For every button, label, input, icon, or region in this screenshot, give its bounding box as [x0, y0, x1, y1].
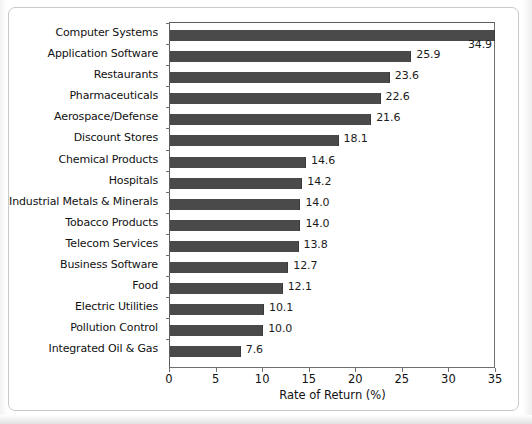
category-label: Computer Systems [55, 26, 158, 39]
category-label: Restaurants [94, 68, 158, 81]
bar [170, 220, 300, 231]
category-tick [166, 23, 170, 24]
value-axis-tick-labels: 05101520253035 [0, 372, 532, 388]
bar [170, 72, 390, 83]
chart-page: Computer SystemsApplication SoftwareRest… [0, 0, 532, 424]
bar-value-label: 12.1 [288, 280, 312, 293]
value-tick-label: 20 [348, 372, 363, 386]
bar-row: 34.9 [170, 26, 494, 47]
category-label: Discount Stores [74, 131, 158, 144]
value-tick-label: 15 [301, 372, 316, 386]
category-tick [166, 86, 170, 87]
bar-row: 25.9 [170, 47, 494, 68]
bar [170, 199, 300, 210]
bar-row: 10.1 [170, 300, 494, 321]
value-axis-title: Rate of Return (%) [169, 388, 496, 402]
category-tick [166, 234, 170, 235]
bar-row: 23.6 [170, 68, 494, 89]
bar-value-label: 10.1 [269, 301, 293, 314]
bar-value-label: 14.0 [305, 196, 329, 209]
category-label: Pollution Control [70, 321, 158, 334]
category-tick [166, 44, 170, 45]
category-label: Chemical Products [59, 153, 158, 166]
bar-value-label: 7.6 [246, 343, 263, 356]
value-tick-label: 0 [165, 372, 172, 386]
bar [170, 241, 299, 252]
category-tick [166, 150, 170, 151]
category-tick [166, 339, 170, 340]
bar-value-label: 13.8 [304, 238, 328, 251]
bar [170, 283, 283, 294]
category-tick [166, 192, 170, 193]
bar-row: 7.6 [170, 342, 494, 363]
bar-value-label: 14.2 [307, 175, 331, 188]
bar-row: 13.8 [170, 237, 494, 258]
bar [170, 262, 288, 273]
value-tick-label: 35 [488, 372, 503, 386]
category-label: Electric Utilities [75, 300, 158, 313]
bar-row: 14.0 [170, 216, 494, 237]
category-label: Telecom Services [66, 237, 158, 250]
page-edge-shadow-right [522, 0, 532, 424]
bar-value-label: 14.0 [305, 217, 329, 230]
bar [170, 157, 306, 168]
category-label: Business Software [60, 258, 158, 271]
bar [170, 30, 495, 41]
bar-row: 22.6 [170, 89, 494, 110]
bar-value-label: 10.0 [268, 322, 292, 335]
bar-row: 21.6 [170, 110, 494, 131]
bar-row: 12.7 [170, 258, 494, 279]
category-label: Aerospace/Defense [54, 110, 158, 123]
value-tick-label: 30 [441, 372, 456, 386]
bar-value-label: 18.1 [344, 132, 368, 145]
bar-row: 10.0 [170, 321, 494, 342]
category-label: Integrated Oil & Gas [49, 342, 158, 355]
bar [170, 93, 381, 104]
category-tick [166, 128, 170, 129]
category-label: Hospitals [109, 174, 158, 187]
category-label: Tobacco Products [65, 216, 158, 229]
category-tick [166, 213, 170, 214]
bar-row: 14.0 [170, 195, 494, 216]
plot-area: 34.925.923.622.621.618.114.614.214.014.0… [169, 22, 495, 368]
category-label: Pharmaceuticals [69, 89, 158, 102]
bar-value-label: 25.9 [416, 48, 440, 61]
bar [170, 135, 339, 146]
bar-row: 12.1 [170, 279, 494, 300]
bar-value-label: 23.6 [395, 69, 419, 82]
bar-row: 14.6 [170, 153, 494, 174]
value-tick-label: 5 [212, 372, 219, 386]
category-label: Food [132, 279, 158, 292]
bar [170, 114, 371, 125]
bar [170, 325, 263, 336]
bars-container: 34.925.923.622.621.618.114.614.214.014.0… [170, 23, 494, 367]
bar-row: 14.2 [170, 174, 494, 195]
category-axis-labels: Computer SystemsApplication SoftwareRest… [0, 22, 164, 368]
bar-value-label: 21.6 [376, 111, 400, 124]
bar-value-label: 12.7 [293, 259, 317, 272]
bar [170, 178, 302, 189]
page-edge-shadow-bottom [0, 415, 532, 424]
category-tick [166, 171, 170, 172]
bar [170, 304, 264, 315]
bar-value-label: 14.6 [311, 154, 335, 167]
category-tick [166, 318, 170, 319]
category-label: Industrial Metals & Minerals [9, 195, 158, 208]
bar [170, 346, 241, 357]
category-label: Application Software [48, 47, 158, 60]
bar-row: 18.1 [170, 131, 494, 152]
category-tick [166, 107, 170, 108]
category-tick [166, 255, 170, 256]
value-tick-label: 25 [395, 372, 410, 386]
category-tick [166, 297, 170, 298]
bar [170, 51, 411, 62]
bar-value-label: 22.6 [386, 90, 410, 103]
value-tick-label: 10 [255, 372, 270, 386]
category-tick [166, 276, 170, 277]
category-tick [166, 65, 170, 66]
